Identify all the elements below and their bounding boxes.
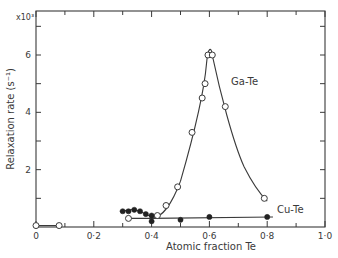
ga-te-point xyxy=(154,213,160,219)
ga-te-point xyxy=(202,81,208,87)
ga-te-point xyxy=(199,95,205,101)
x-tick-label: 0·6 xyxy=(202,231,217,241)
cu-te-point xyxy=(126,209,131,214)
cu-te-point xyxy=(143,212,148,217)
ga-te-point xyxy=(163,203,169,209)
cu-te-point xyxy=(132,207,137,212)
cu-te-point xyxy=(120,209,125,214)
x-tick-label: 0·8 xyxy=(260,231,275,241)
cu-te-point xyxy=(207,214,212,219)
ga-te-curve xyxy=(128,49,267,218)
x-axis-label: Atomic fraction Te xyxy=(166,241,256,252)
ga-te-point xyxy=(261,195,267,201)
ga-te-point xyxy=(33,223,39,229)
ga-te-point xyxy=(222,104,228,110)
x-tick-label: 1·0 xyxy=(318,231,333,241)
y-axis-label: Relaxation rate (s⁻¹) xyxy=(5,68,16,170)
cu-te-point xyxy=(137,209,142,214)
ga-te-point xyxy=(56,223,62,229)
y-multiplier-label: x10³ xyxy=(16,13,34,22)
axes-box xyxy=(36,11,325,227)
y-tick-label: 6 xyxy=(25,50,31,60)
chart: 00·20·40·60·81·0246 Atomic fraction Te R… xyxy=(0,0,338,258)
cu-te-point xyxy=(149,213,154,218)
y-tick-label: 4 xyxy=(25,107,31,117)
x-tick-label: 0 xyxy=(33,231,39,241)
ga-te-point xyxy=(209,52,215,58)
series-label-ga-te: Ga-Te xyxy=(231,76,258,87)
cu-te-point xyxy=(265,214,270,219)
plot-frame xyxy=(36,11,325,227)
cu-te-point xyxy=(149,219,154,224)
ga-te-point xyxy=(125,215,131,221)
y-tick-label: 2 xyxy=(25,165,31,175)
ga-te-point xyxy=(175,184,181,190)
cu-te-point xyxy=(178,217,183,222)
series-label-cu-te: Cu-Te xyxy=(277,204,304,215)
x-tick-label: 0·4 xyxy=(144,231,159,241)
x-tick-label: 0·2 xyxy=(87,231,101,241)
ga-te-point xyxy=(189,129,195,135)
